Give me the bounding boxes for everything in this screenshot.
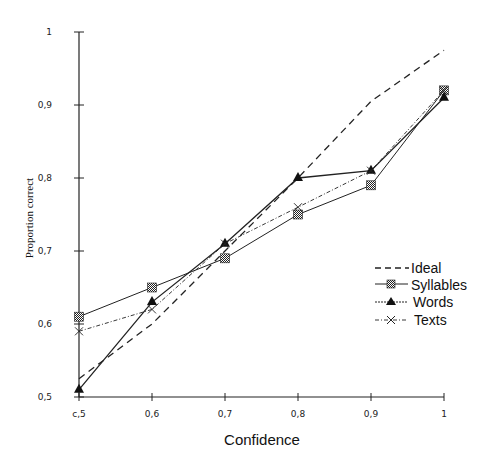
legend-item-texts: Texts [375,312,447,328]
checkered-square-marker [148,283,157,292]
x-tick-label: c,5 [72,409,86,419]
x-cross-marker [148,305,156,313]
calibration-chart: 0,50,60,70,80,91 c,50,60,70,80,91 Confid… [0,0,491,472]
y-axis: 0,50,60,70,80,91 [38,27,84,402]
x-axis-title: Confidence [224,431,300,448]
legend-item-ideal: Ideal [375,260,441,276]
legend-label: Syllables [411,277,467,293]
triangle-marker [147,296,157,305]
triangle-marker [293,172,303,181]
x-tick-label: 1 [441,409,447,419]
legend-label: Ideal [411,260,441,276]
x-tick-label: 0,9 [364,409,379,419]
series-words [74,92,449,393]
checkered-square-icon [387,280,395,288]
legend-item-words: Words [375,294,453,310]
x-axis: c,50,60,70,80,91 [72,393,447,419]
checkered-square-marker [75,312,84,321]
checkered-square-marker [294,210,303,219]
triangle-icon [386,297,396,305]
triangle-marker [220,238,230,247]
y-tick-label: 0,8 [38,173,53,183]
y-tick-label: 0,9 [38,100,53,110]
series-ideal [79,50,444,379]
legend: Ideal Syllables Words Texts [375,260,467,328]
y-tick-label: 1 [46,27,52,37]
x-tick-label: 0,7 [218,409,232,419]
checkered-square-marker [221,254,230,263]
y-tick-label: 0,7 [38,246,52,256]
legend-label: Words [413,294,453,310]
legend-item-syllables: Syllables [375,277,467,293]
y-axis-title: Proportion correct [23,178,35,258]
checkered-square-marker [367,181,376,190]
x-tick-label: 0,8 [291,409,306,419]
legend-label: Texts [414,312,447,328]
y-tick-label: 0,5 [38,392,52,402]
y-tick-label: 0,6 [38,319,53,329]
x-tick-label: 0,6 [145,409,160,419]
plot-area [74,50,449,392]
